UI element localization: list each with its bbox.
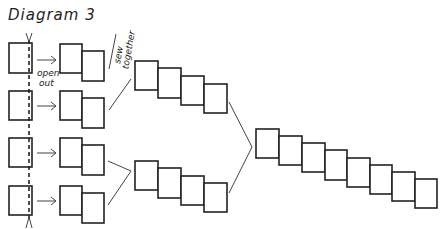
diagram-canvas: open out sew together xyxy=(0,0,446,229)
final-box xyxy=(370,165,392,194)
open-label-line2: out xyxy=(39,78,54,88)
final-box xyxy=(347,158,370,187)
pair-2-b xyxy=(82,98,104,128)
pair-3-a xyxy=(60,138,82,167)
final-box xyxy=(256,129,279,158)
pair-3-b xyxy=(82,145,104,175)
final-strip xyxy=(256,129,437,208)
arrow-icon xyxy=(37,56,56,64)
sewn-group-bottom xyxy=(135,161,227,212)
pair-2-a xyxy=(60,91,82,120)
group-2-box xyxy=(181,176,204,205)
final-box xyxy=(279,136,302,165)
final-box xyxy=(415,179,437,208)
group-1-box xyxy=(181,76,204,105)
group-2-box xyxy=(158,168,181,198)
group-1-box xyxy=(135,61,158,90)
pair-1-b xyxy=(82,51,104,81)
group-1-box xyxy=(158,68,181,98)
arrow-icon xyxy=(37,149,56,157)
group-2-box xyxy=(204,183,227,212)
pair-4-a xyxy=(60,186,82,215)
final-box xyxy=(302,143,325,172)
group-2-box xyxy=(135,161,158,190)
opened-pairs xyxy=(60,44,104,223)
pair-1-a xyxy=(60,44,82,73)
arrow-icon xyxy=(37,197,56,205)
open-label-line1: open xyxy=(37,68,60,78)
final-box xyxy=(325,150,347,180)
scissors-bottom-icon xyxy=(26,217,32,228)
final-box xyxy=(392,172,415,201)
group-1-box xyxy=(204,84,227,113)
sew-together-label: sew together xyxy=(111,27,137,70)
pair-4-b xyxy=(82,193,104,223)
scissors-top-icon xyxy=(26,33,32,42)
sewn-group-top xyxy=(135,61,227,113)
arrow-icon xyxy=(37,102,56,110)
